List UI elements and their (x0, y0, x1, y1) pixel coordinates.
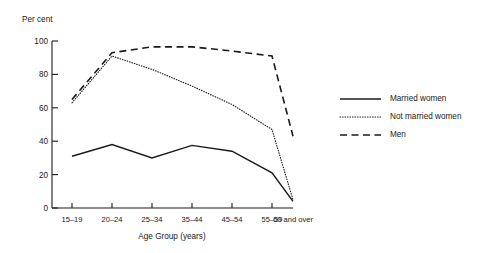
x-tick-label-6: 60 and over (273, 215, 314, 224)
x-tick-marks (72, 203, 272, 208)
unit-label: Per cent (22, 15, 53, 24)
x-tick-label-1: 20–24 (101, 215, 122, 224)
y-tick-label-40: 40 (39, 137, 49, 146)
line-chart-svg: Per cent 100 80 60 40 20 0 (0, 0, 485, 253)
legend: Married women Not married women Men (340, 94, 462, 139)
legend-item-not-married-women[interactable]: Not married women (340, 112, 462, 121)
series-line-married-women (72, 145, 293, 202)
y-tick-label-100: 100 (34, 37, 48, 46)
legend-item-men[interactable]: Men (340, 130, 406, 139)
legend-label-men: Men (390, 130, 406, 139)
y-tick-label-60: 60 (39, 104, 49, 113)
x-tick-label-2: 25–34 (141, 215, 162, 224)
x-tick-label-0: 15–19 (61, 215, 82, 224)
y-tick-marks (52, 41, 58, 208)
series-line-men (72, 47, 293, 136)
chart-container: Per cent 100 80 60 40 20 0 (0, 0, 485, 253)
legend-item-married-women[interactable]: Married women (340, 94, 447, 103)
series-line-not-married-women (72, 56, 293, 200)
x-axis-title: Age Group (years) (138, 232, 206, 241)
x-tick-label-3: 35–44 (181, 215, 202, 224)
legend-label-not-married-women: Not married women (390, 112, 462, 121)
legend-label-married-women: Married women (390, 94, 447, 103)
x-tick-label-4: 45–54 (221, 215, 242, 224)
y-tick-label-80: 80 (39, 70, 49, 79)
y-tick-label-0: 0 (43, 204, 48, 213)
y-tick-label-20: 20 (39, 171, 49, 180)
